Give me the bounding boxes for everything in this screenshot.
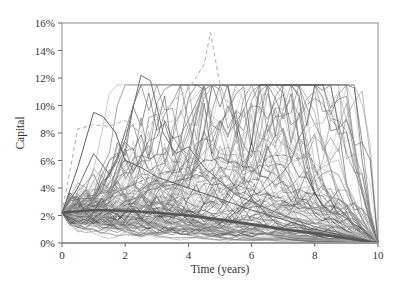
y-tick-label: 10%	[35, 100, 55, 112]
chart-container: 0%2%4%6%8%10%12%14%16%0246810 Capital Ti…	[0, 0, 401, 288]
x-tick-label: 6	[249, 249, 255, 261]
y-tick-label: 4%	[40, 182, 55, 194]
x-tick-label: 0	[59, 249, 65, 261]
y-tick-label: 2%	[40, 210, 55, 222]
x-tick-label: 4	[186, 249, 192, 261]
y-tick-label: 12%	[35, 72, 55, 84]
y-tick-label: 14%	[35, 45, 55, 57]
x-axis-title: Time (years)	[191, 263, 250, 276]
x-tick-label: 10	[373, 249, 385, 261]
y-tick-label: 8%	[40, 127, 55, 139]
x-tick-label: 8	[312, 249, 318, 261]
y-axis-title: Capital	[14, 116, 27, 149]
capital-chart: 0%2%4%6%8%10%12%14%16%0246810 Capital Ti…	[0, 0, 401, 288]
y-tick-label: 0%	[40, 237, 55, 249]
y-tick-label: 6%	[40, 155, 55, 167]
y-tick-label: 16%	[35, 17, 55, 29]
x-tick-label: 2	[122, 249, 128, 261]
